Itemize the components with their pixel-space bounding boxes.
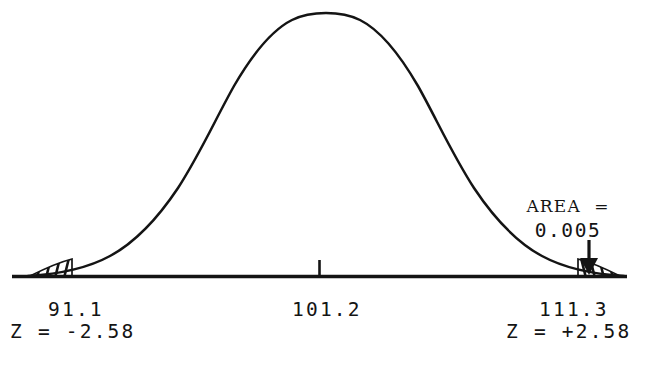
x-label-center-value: 101.2 [292,300,362,320]
area-annotation: AREA = 0.005 [506,198,630,241]
x-label-left-value: 91.1 [48,300,104,320]
area-value: 0.005 [506,221,630,241]
x-label-left-z: Z = -2.58 [10,322,135,342]
x-label-right-z: Z = +2.58 [506,322,631,342]
area-label: AREA = [506,198,630,215]
normal-distribution-figure: AREA = 0.005 91.1 Z = -2.58 101.2 111.3 … [0,0,649,370]
x-label-right-value: 111.3 [539,300,609,320]
